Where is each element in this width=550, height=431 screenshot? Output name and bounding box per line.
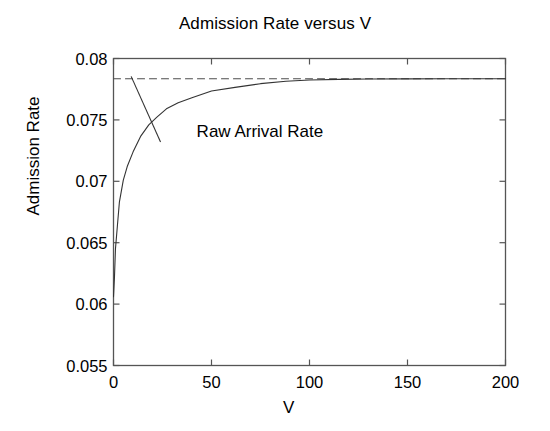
series-line-admission-rate (114, 79, 506, 297)
x-tick-label: 150 (394, 373, 422, 391)
y-tick-label: 0.08 (75, 50, 107, 68)
y-tick-label: 0.055 (66, 357, 107, 375)
plot-frame (114, 59, 506, 366)
x-tick-label: 0 (109, 373, 118, 391)
chart-figure: Admission Rate versus V Admission Rate V… (0, 0, 550, 431)
x-tick-label: 100 (296, 373, 324, 391)
x-tick-label: 50 (202, 373, 220, 391)
annotation-label: Raw Arrival Rate (197, 122, 324, 141)
y-tick-label: 0.07 (75, 172, 107, 190)
y-tick-label: 0.06 (75, 295, 107, 313)
annotation-leader-line (131, 76, 160, 142)
y-tick-label: 0.075 (66, 111, 107, 129)
y-tick-label: 0.065 (66, 234, 107, 252)
plot-area: 0501001502000.0550.060.0650.070.0750.08R… (0, 0, 550, 431)
x-tick-label: 200 (492, 373, 520, 391)
